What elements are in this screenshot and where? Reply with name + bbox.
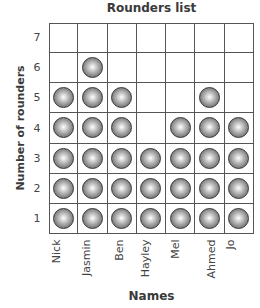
rounder-ball-icon	[140, 148, 161, 169]
rounder-ball-icon	[199, 87, 220, 108]
grid-cell	[49, 53, 78, 83]
grid-cell	[166, 144, 195, 174]
rounder-ball-icon	[228, 117, 249, 138]
y-tick-label: 6	[30, 61, 44, 74]
grid-cell	[195, 53, 224, 83]
grid-cell	[49, 113, 78, 143]
grid-cell	[78, 144, 107, 174]
grid-cell	[78, 23, 107, 53]
grid-cell	[108, 83, 137, 113]
rounder-ball-icon	[170, 117, 191, 138]
grid-cell	[78, 83, 107, 113]
x-tick-label: Ben	[108, 240, 137, 290]
rounder-ball-icon	[228, 148, 249, 169]
y-axis-label: Number of rounders	[14, 65, 27, 190]
grid-cell	[225, 113, 254, 143]
y-tick-label: 2	[30, 182, 44, 195]
grid-cell	[166, 174, 195, 204]
grid-cell	[49, 83, 78, 113]
rounder-ball-icon	[82, 148, 103, 169]
grid-cell	[49, 174, 78, 204]
rounder-ball-icon	[82, 178, 103, 199]
grid-cell	[195, 144, 224, 174]
grid-cell	[108, 113, 137, 143]
grid-cell	[108, 23, 137, 53]
rounder-ball-icon	[199, 148, 220, 169]
grid-cell	[78, 174, 107, 204]
grid-cell	[49, 204, 78, 234]
rounder-ball-icon	[53, 208, 74, 229]
grid-cell	[108, 53, 137, 83]
grid-cell	[225, 83, 254, 113]
rounder-ball-icon	[53, 117, 74, 138]
rounder-ball-icon	[140, 178, 161, 199]
rounder-ball-icon	[111, 208, 132, 229]
grid-cell	[49, 144, 78, 174]
grid-cell	[137, 113, 166, 143]
x-axis-label: Names	[49, 289, 254, 303]
rounder-ball-icon	[228, 208, 249, 229]
grid-cell	[225, 174, 254, 204]
grid-cell	[108, 174, 137, 204]
rounder-ball-icon	[53, 87, 74, 108]
rounder-ball-icon	[199, 178, 220, 199]
rounder-ball-icon	[170, 148, 191, 169]
rounder-ball-icon	[170, 208, 191, 229]
chart-title: Rounders list	[49, 1, 254, 15]
grid-cell	[225, 204, 254, 234]
grid-cell	[225, 144, 254, 174]
grid-cell	[225, 23, 254, 53]
rounder-ball-icon	[111, 87, 132, 108]
y-tick-label: 7	[30, 31, 44, 44]
x-tick-label: Nick	[49, 240, 78, 290]
grid-cell	[225, 53, 254, 83]
grid-cell	[195, 174, 224, 204]
grid-cell	[166, 23, 195, 53]
grid-cell	[166, 204, 195, 234]
rounder-ball-icon	[82, 117, 103, 138]
y-tick-label: 4	[30, 122, 44, 135]
grid-cell	[137, 83, 166, 113]
rounder-ball-icon	[111, 148, 132, 169]
grid-cell	[166, 113, 195, 143]
grid-cell	[108, 204, 137, 234]
grid-cell	[137, 144, 166, 174]
x-tick-label: Jasmin	[78, 240, 107, 290]
rounder-ball-icon	[228, 178, 249, 199]
grid-cell	[195, 23, 224, 53]
grid-cell	[108, 144, 137, 174]
grid-cell	[78, 53, 107, 83]
rounder-ball-icon	[82, 208, 103, 229]
y-tick-label: 1	[30, 212, 44, 225]
rounder-ball-icon	[53, 148, 74, 169]
x-tick-label: Hayley	[137, 240, 166, 290]
grid-cell	[137, 174, 166, 204]
x-tick-label: Ahmed	[195, 240, 224, 290]
pictogram-grid	[49, 23, 254, 234]
rounder-ball-icon	[82, 87, 103, 108]
x-tick-label: Mel	[166, 240, 195, 290]
rounder-ball-icon	[199, 208, 220, 229]
grid-cell	[137, 204, 166, 234]
grid-cell	[195, 113, 224, 143]
rounder-ball-icon	[199, 117, 220, 138]
grid-cell	[49, 23, 78, 53]
rounder-ball-icon	[140, 208, 161, 229]
grid-cell	[195, 83, 224, 113]
grid-cell	[137, 23, 166, 53]
rounder-ball-icon	[170, 178, 191, 199]
grid-cell	[78, 113, 107, 143]
grid-cell	[137, 53, 166, 83]
y-tick-label: 5	[30, 91, 44, 104]
grid-cell	[166, 53, 195, 83]
rounder-ball-icon	[82, 57, 103, 78]
rounder-ball-icon	[111, 117, 132, 138]
grid-cell	[166, 83, 195, 113]
y-tick-label: 3	[30, 152, 44, 165]
grid-cell	[78, 204, 107, 234]
rounder-ball-icon	[111, 178, 132, 199]
rounder-ball-icon	[53, 178, 74, 199]
x-tick-label: Jo	[225, 240, 254, 290]
grid-cell	[195, 204, 224, 234]
